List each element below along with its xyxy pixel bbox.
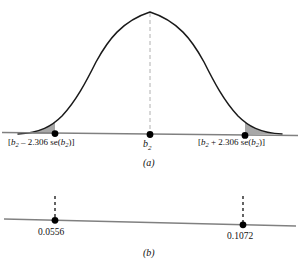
upper-bound-operator: +	[211, 137, 216, 147]
lower-bound-dot	[52, 130, 59, 137]
panel-a-caption: (a)	[143, 158, 155, 168]
lower-bound-se-text: se(	[50, 137, 61, 147]
upper-bound-se-text: se(	[241, 137, 252, 147]
upper-bound-symbol: b	[201, 137, 206, 147]
upper-bound-close-text: )]	[259, 137, 265, 147]
lower-bound-close-text: )]	[69, 137, 75, 147]
statistics-confidence-interval-figure: [b2 – 2.306 se(b2)] b2 [b2 + 2.306 se(b2…	[0, 0, 300, 267]
upper-bound-se-subscript: 2	[256, 141, 259, 148]
lower-bound-symbol: b	[11, 137, 16, 147]
lower-value-label: 0.0556	[38, 228, 64, 238]
lower-bound-subscript: 2	[16, 141, 19, 148]
upper-value-dot	[240, 221, 247, 228]
center-point-label: b2	[143, 139, 152, 149]
lower-value-dot	[52, 217, 59, 224]
upper-value-label: 0.1072	[227, 232, 253, 242]
center-point-dot	[147, 131, 154, 138]
lower-bound-critical-value: 2.306	[28, 137, 48, 147]
lower-bound-operator: –	[21, 137, 26, 147]
upper-bound-label: [b2 + 2.306 se(b2)]	[198, 138, 265, 147]
upper-bound-critical-value: 2.306	[218, 137, 238, 147]
upper-bound-subscript: 2	[206, 141, 209, 148]
lower-bound-se-subscript: 2	[65, 141, 68, 148]
panel-b-axis	[4, 219, 296, 226]
center-point-subscript: 2	[148, 144, 152, 152]
panel-b-caption: (b)	[143, 248, 155, 258]
lower-bound-label: [b2 – 2.306 se(b2)]	[8, 138, 75, 147]
